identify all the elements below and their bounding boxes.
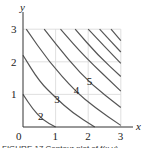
contour-plot: x y 0 123 123 2345 FIGURE 17 Contour plo… bbox=[0, 0, 147, 148]
y-axis-label: y bbox=[19, 1, 25, 13]
contour-level-label: 2 bbox=[38, 110, 44, 122]
x-tick-label: 2 bbox=[85, 130, 91, 142]
contour-line-10 bbox=[111, 29, 121, 40]
contour-level-label: 4 bbox=[74, 84, 80, 96]
contour-level-label: 5 bbox=[87, 75, 93, 87]
x-tick-labels: 123 bbox=[53, 130, 124, 142]
x-tick-label: 1 bbox=[53, 130, 59, 142]
contour-line-9 bbox=[100, 29, 121, 52]
contour-line-3 bbox=[23, 55, 95, 127]
y-tick-label: 3 bbox=[11, 23, 17, 35]
y-tick-labels: 123 bbox=[11, 23, 17, 100]
contour-level-label: 3 bbox=[54, 93, 60, 105]
x-axis-label: x bbox=[135, 120, 141, 132]
x-tick-label: 3 bbox=[118, 130, 124, 142]
origin-label: 0 bbox=[16, 130, 22, 142]
figure-caption: FIGURE 17 Contour plot of f(x,y) bbox=[2, 144, 118, 148]
y-tick-label: 2 bbox=[11, 56, 17, 68]
y-tick-label: 1 bbox=[11, 88, 17, 100]
